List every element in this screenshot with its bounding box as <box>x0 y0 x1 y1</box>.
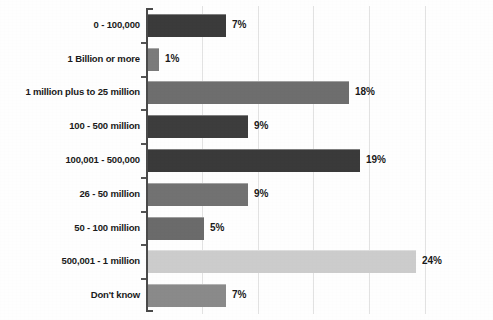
axis-cap-top <box>146 8 153 10</box>
bar <box>148 14 226 37</box>
bar-value-label: 19% <box>366 154 386 165</box>
bar-value-label: 9% <box>254 188 268 199</box>
category-label: 500,001 - 1 million <box>62 255 140 266</box>
category-label: 1 Billion or more <box>68 53 140 64</box>
category-label: 1 million plus to 25 million <box>25 86 140 97</box>
category-label: Don't know <box>91 289 140 300</box>
axis-tick <box>141 278 146 280</box>
bar <box>148 217 204 240</box>
bar <box>148 115 248 138</box>
bar-value-label: 7% <box>232 289 246 300</box>
plot-area: 0 - 100,0007%1 Billion or more1%1 millio… <box>0 0 493 320</box>
bar-value-label: 1% <box>165 53 179 64</box>
category-label: 100 - 500 million <box>69 120 140 131</box>
gridline-25 <box>425 6 426 314</box>
bar-chart: 0 - 100,0007%1 Billion or more1%1 millio… <box>0 0 493 320</box>
axis-tick <box>141 211 146 213</box>
axis-tick <box>141 244 146 246</box>
axis-tick <box>141 177 146 179</box>
bar-value-label: 7% <box>232 19 246 30</box>
axis-tick <box>141 109 146 111</box>
category-label: 50 - 100 million <box>74 222 140 233</box>
bar <box>148 48 159 71</box>
category-label: 100,001 - 500,000 <box>65 154 140 165</box>
bar <box>148 183 248 206</box>
bar-value-label: 18% <box>355 86 375 97</box>
bar <box>148 81 349 104</box>
bar <box>148 250 416 273</box>
bar <box>148 284 226 307</box>
bar-value-label: 24% <box>422 255 442 266</box>
category-label: 0 - 100,000 <box>94 19 140 30</box>
category-label: 26 - 50 million <box>79 188 140 199</box>
axis-tick <box>141 143 146 145</box>
axis-cap-bottom <box>146 310 153 312</box>
bar <box>148 149 360 172</box>
axis-tick <box>141 76 146 78</box>
bar-value-label: 9% <box>254 120 268 131</box>
axis-tick <box>141 42 146 44</box>
bar-value-label: 5% <box>210 222 224 233</box>
